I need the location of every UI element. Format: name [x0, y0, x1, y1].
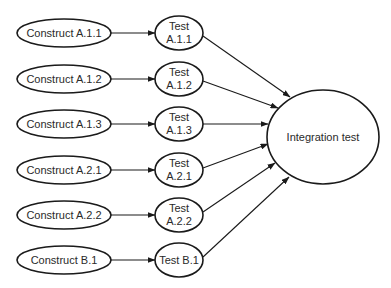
- test-node: Test A.1.3: [155, 107, 203, 141]
- construct-label: Construct B.1: [31, 254, 98, 266]
- edge-t6-int: [203, 177, 289, 257]
- test-label-line1: Test: [169, 157, 189, 169]
- test-label-line2: A.1.1: [166, 33, 192, 45]
- edge-t2-int: [203, 81, 278, 108]
- edges-construct-to-test: [111, 33, 155, 260]
- edge-t5-int: [203, 163, 275, 212]
- test-node: Test A.1.1: [155, 16, 203, 50]
- test-label-line2: A.2.1: [166, 170, 192, 182]
- construct-label: Construct A.1.3: [26, 118, 101, 130]
- test-label-line1: Test: [169, 66, 189, 78]
- test-label-line1: Test: [169, 202, 189, 214]
- construct-node: Construct A.1.1: [17, 19, 111, 47]
- edge-t1-int: [203, 36, 290, 97]
- construct-node: Construct A.1.3: [17, 110, 111, 138]
- test-label-line2: A.1.2: [166, 79, 192, 91]
- construct-label: Construct A.1.1: [26, 27, 101, 39]
- test-label-line1: Test: [169, 20, 189, 32]
- test-label-line2: A.2.2: [166, 215, 192, 227]
- edge-t4-int: [203, 144, 268, 168]
- construct-node: Construct A.2.1: [17, 156, 111, 184]
- construct-label: Construct A.2.2: [26, 209, 101, 221]
- test-node: Test A.1.2: [155, 62, 203, 96]
- test-node: Test B.1: [155, 243, 203, 277]
- diagram-canvas: Construct A.1.1 Construct A.1.2 Construc…: [0, 0, 391, 288]
- test-node: Test A.2.2: [155, 198, 203, 232]
- test-label-line2: A.1.3: [166, 124, 192, 136]
- construct-node: Construct A.2.2: [17, 201, 111, 229]
- construct-label: Construct A.2.1: [26, 164, 101, 176]
- test-label: Test B.1: [159, 254, 199, 266]
- construct-label: Construct A.1.2: [26, 73, 101, 85]
- integration-label: Integration test: [287, 131, 360, 143]
- test-node: Test A.2.1: [155, 153, 203, 187]
- test-label-line1: Test: [169, 111, 189, 123]
- construct-node: Construct A.1.2: [17, 65, 111, 93]
- integration-node: Integration test: [267, 90, 379, 184]
- construct-node: Construct B.1: [17, 246, 111, 274]
